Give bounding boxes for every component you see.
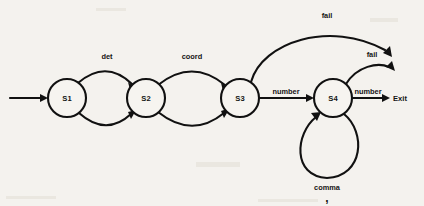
transition-s2-s3-return xyxy=(158,108,230,126)
diagram-canvas: det coord number number xyxy=(0,0,424,206)
transition-s1-s2-return xyxy=(79,110,136,125)
edge-label-coord: coord xyxy=(182,52,203,61)
state-node-s2[interactable]: S2 xyxy=(127,79,165,117)
state-label-s2: S2 xyxy=(141,94,150,103)
edge-label-fail-s3-exit: fail xyxy=(322,11,333,20)
transition-s3-exit-fail xyxy=(251,36,392,82)
edge-label-number-s4-exit: number xyxy=(354,87,381,96)
state-label-s3: S3 xyxy=(235,94,244,103)
state-node-s3[interactable]: S3 xyxy=(221,79,259,117)
terminal-label-exit: Exit xyxy=(393,94,407,103)
state-label-s4: S4 xyxy=(328,94,338,103)
transition-s4-exit-fail xyxy=(346,61,395,84)
transition-s1-s2-det xyxy=(78,71,136,90)
state-node-s4[interactable]: S4 xyxy=(314,79,352,117)
edge-label-det: det xyxy=(101,52,113,61)
state-node-s1[interactable]: S1 xyxy=(48,79,86,117)
transition-s4-self-comma xyxy=(300,112,358,178)
state-label-s1: S1 xyxy=(62,94,72,103)
transition-s2-s3-coord xyxy=(158,72,230,92)
edge-label-number-s3-s4: number xyxy=(272,87,299,96)
state-machine-diagram: det coord number number xyxy=(0,0,424,206)
comma-glyph: , xyxy=(325,191,328,205)
edge-label-fail-s4-exit: fail xyxy=(367,50,378,59)
start-arrow xyxy=(10,94,48,102)
